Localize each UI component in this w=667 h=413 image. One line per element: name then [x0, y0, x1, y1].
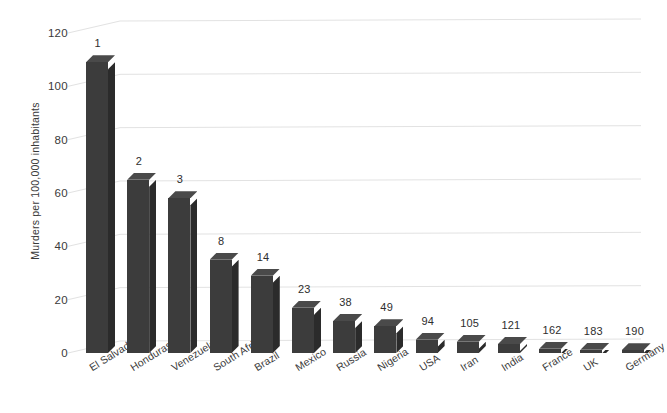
bar-value-label: 105: [460, 317, 479, 329]
bar: [580, 350, 602, 353]
bar-value-label: 14: [257, 251, 270, 263]
bar: [333, 321, 355, 353]
bar-top-face: [292, 301, 321, 308]
bar-side-face: [479, 342, 486, 353]
bar-side-face: [108, 62, 115, 353]
bar-value-label: 2: [136, 155, 142, 167]
bar-top-face: [127, 173, 156, 180]
bar-value-label: 3: [177, 173, 183, 185]
bar: [374, 326, 396, 353]
bar: [251, 276, 273, 353]
bar-group: 105: [457, 0, 479, 413]
bar-group: 183: [580, 0, 602, 413]
bar-side-face: [602, 350, 609, 353]
bar-value-label: 162: [543, 324, 562, 336]
bar-value-label: 38: [339, 296, 352, 308]
bar-value-label: 190: [625, 325, 644, 337]
bar-top-face: [498, 337, 527, 344]
bar-value-label: 8: [218, 235, 224, 247]
bar: [457, 342, 479, 353]
bar: [210, 260, 232, 353]
bar-value-label: 94: [422, 315, 435, 327]
bar-side-face: [190, 198, 197, 353]
bar-top-face: [251, 269, 280, 276]
bar: [86, 62, 108, 353]
bar: [168, 198, 190, 353]
bar-top-face: [374, 319, 403, 326]
bar-side-face: [149, 180, 156, 353]
bar-top-face: [457, 335, 486, 342]
bar: [127, 180, 149, 353]
bar-value-label: 23: [298, 283, 311, 295]
bar-top-face: [168, 191, 197, 198]
bar: [292, 308, 314, 353]
bars-layer: 1El Salvador2Honduras3Venezuela8South Af…: [0, 0, 667, 413]
bar-top-face: [416, 333, 445, 340]
bar-value-label: 1: [94, 37, 100, 49]
bar-side-face: [273, 276, 280, 353]
bar-top-face: [333, 314, 362, 321]
bar-side-face: [520, 344, 527, 353]
bar-value-label: 183: [584, 325, 603, 337]
bar-side-face: [232, 260, 239, 353]
bar-top-face: [210, 253, 239, 260]
bar-side-face: [438, 340, 445, 353]
bar-value-label: 121: [501, 319, 520, 331]
bar-value-label: 49: [380, 301, 393, 313]
bar-chart: Murders per 100,000 inhabitants 02040608…: [0, 0, 667, 413]
bar-top-face: [86, 55, 115, 62]
bar-top-face: [580, 343, 609, 350]
